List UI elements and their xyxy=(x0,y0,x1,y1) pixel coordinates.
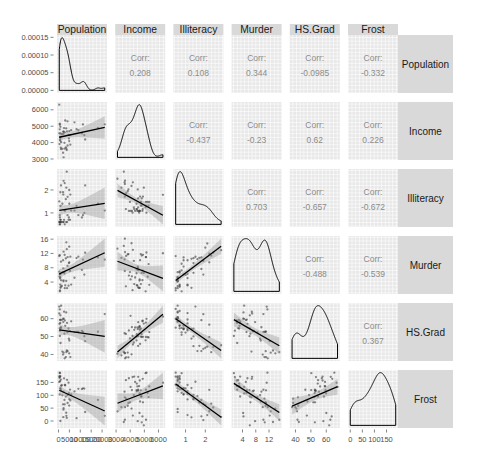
data-point xyxy=(175,255,177,257)
data-point xyxy=(69,388,71,390)
data-point xyxy=(67,382,69,384)
data-point xyxy=(186,284,188,286)
data-point xyxy=(125,379,127,381)
data-point xyxy=(59,342,61,344)
data-point xyxy=(142,254,144,256)
data-point xyxy=(66,417,68,419)
data-point xyxy=(264,421,266,423)
panel-gridlines xyxy=(290,236,340,294)
data-point xyxy=(81,388,83,390)
column-strip-label: Murder xyxy=(240,24,273,35)
data-point xyxy=(59,219,61,221)
column-strip: Income xyxy=(115,24,165,35)
data-point xyxy=(83,273,85,275)
panel-scatter-frost-vs-population xyxy=(57,370,107,428)
data-point xyxy=(136,326,138,328)
data-point xyxy=(133,260,135,262)
data-point xyxy=(162,252,164,254)
y-tick-label: 40 xyxy=(40,350,48,359)
data-point xyxy=(68,189,70,191)
data-point xyxy=(116,178,118,180)
data-point xyxy=(65,198,67,200)
data-point xyxy=(184,331,186,333)
data-point xyxy=(208,324,210,326)
row-strip: Illiteracy xyxy=(398,169,453,227)
corr-label: Corr: xyxy=(247,53,266,63)
data-point xyxy=(65,311,67,313)
x-tick-label: 6000 xyxy=(150,435,167,444)
data-point xyxy=(182,259,184,261)
panel-density-murder-vs-murder xyxy=(232,236,282,294)
data-point xyxy=(141,320,143,322)
data-point xyxy=(77,256,79,258)
data-point xyxy=(198,345,200,347)
data-point xyxy=(123,421,125,423)
data-point xyxy=(58,221,60,223)
row-strip: Population xyxy=(398,35,453,93)
data-point xyxy=(251,312,253,314)
data-point xyxy=(63,127,65,129)
data-point xyxy=(147,336,149,338)
corr-value: 0.226 xyxy=(362,135,384,145)
data-point xyxy=(196,350,198,352)
data-point xyxy=(262,419,264,421)
data-point xyxy=(59,420,61,422)
corr-value: 0.62 xyxy=(307,135,324,145)
data-point xyxy=(243,304,245,306)
corr-value: -0.332 xyxy=(361,68,385,78)
data-point xyxy=(65,221,67,223)
data-point xyxy=(145,321,147,323)
data-point xyxy=(131,212,133,214)
data-point xyxy=(208,389,210,391)
data-point xyxy=(77,388,79,390)
data-point xyxy=(249,424,251,426)
data-point xyxy=(60,279,62,281)
data-point xyxy=(312,401,314,403)
y-tick-label: 0.00015 xyxy=(21,33,48,42)
panel-corr-hsgrad-vs-frost: Corr:0.367 xyxy=(348,303,398,361)
panel-scatter-frost-vs-hsgrad xyxy=(290,370,340,428)
panel-corr-illiteracy-vs-frost: Corr:-0.672 xyxy=(348,169,398,227)
data-point xyxy=(62,221,64,223)
y-tick-label: 50 xyxy=(40,332,48,341)
x-tick-label: 0 xyxy=(56,435,60,444)
data-point xyxy=(70,320,72,322)
data-point xyxy=(66,130,68,132)
data-point xyxy=(262,313,264,315)
row-strip-label: HS.Grad xyxy=(406,327,445,338)
data-point xyxy=(63,357,65,359)
data-point xyxy=(206,414,208,416)
data-point xyxy=(178,285,180,287)
data-point xyxy=(178,270,180,272)
data-point xyxy=(62,156,64,158)
data-point xyxy=(59,283,61,285)
data-point xyxy=(186,277,188,279)
data-point xyxy=(208,261,210,263)
data-point xyxy=(58,312,60,314)
data-point xyxy=(306,414,308,416)
y-tick-label: 12 xyxy=(40,249,48,258)
data-point xyxy=(73,277,75,279)
panel-gridlines xyxy=(290,102,340,160)
data-point xyxy=(175,376,177,378)
data-point xyxy=(182,256,184,258)
data-point xyxy=(139,400,141,402)
data-point xyxy=(298,421,300,423)
data-point xyxy=(64,119,66,121)
panel-corr-illiteracy-vs-hsgrad: Corr:-0.657 xyxy=(290,169,340,227)
corr-label: Corr: xyxy=(305,187,324,197)
data-point xyxy=(178,378,180,380)
data-point xyxy=(123,245,125,247)
data-point xyxy=(145,419,147,421)
y-tick-label: 6000 xyxy=(32,105,49,114)
data-point xyxy=(144,339,146,341)
data-point xyxy=(204,347,206,349)
data-point xyxy=(330,376,332,378)
data-point xyxy=(65,412,67,414)
data-point xyxy=(144,290,146,292)
panel-scatter-hsgrad-vs-population xyxy=(57,303,107,361)
data-point xyxy=(175,327,177,329)
data-point xyxy=(272,421,274,423)
x-tick-label: 100 xyxy=(368,435,381,444)
data-point xyxy=(175,371,177,373)
